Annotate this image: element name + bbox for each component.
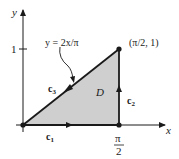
- region-label: D: [95, 86, 104, 98]
- curve-pointer-arrowhead-icon: [70, 76, 75, 83]
- x-tick-label-denominator: 2: [116, 145, 122, 157]
- origin-point: [20, 122, 25, 127]
- x-axis-label: x: [165, 124, 171, 136]
- corner-point: [116, 46, 121, 51]
- curve-equation-label: y = 2x/π: [45, 37, 78, 48]
- y-axis-label: y: [11, 6, 17, 18]
- path-c1-label: c1: [46, 131, 54, 144]
- pi-over-2-point: [116, 122, 121, 127]
- corner-point-label: (π/2, 1): [129, 37, 159, 49]
- x-tick-label-numerator: π: [115, 132, 121, 144]
- region-diagram: y x 1 π 2 y = 2x/π (π/2, 1) D c1 c2 c3: [0, 0, 179, 159]
- y-tick-label: 1: [11, 43, 17, 55]
- curve-label-pointer: [60, 47, 73, 79]
- path-c3-label: c3: [48, 83, 56, 96]
- path-c2-label: c2: [127, 95, 135, 108]
